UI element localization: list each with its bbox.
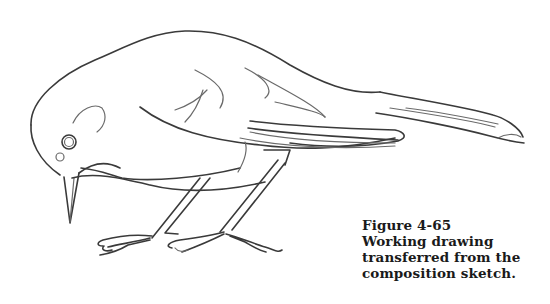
bird-face-outline: [31, 125, 60, 175]
figure-caption: Figure 4-65 Working drawing transferred …: [362, 217, 520, 281]
bird-foot-back: [168, 232, 282, 252]
figure-number: Figure 4-65: [362, 217, 520, 233]
bird-beak: [64, 173, 79, 223]
caption-line-1: Working drawing: [362, 233, 520, 249]
caption-line-2: transferred from the: [362, 249, 520, 265]
caption-line-3: composition sketch.: [362, 265, 520, 281]
bird-foot-front: [98, 235, 152, 255]
